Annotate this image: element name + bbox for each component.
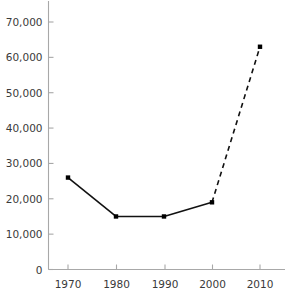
y-tick-label: 70,000	[6, 16, 43, 28]
y-tick-label: 0	[36, 264, 43, 276]
y-tick-label: 50,000	[6, 87, 43, 99]
line-chart: 010,00020,00030,00040,00050,00060,00070,…	[0, 0, 291, 301]
x-tick-label: 1970	[55, 278, 82, 290]
y-tick-label: 60,000	[6, 51, 43, 63]
x-tick-label: 2010	[247, 278, 274, 290]
y-tick-label: 10,000	[6, 228, 43, 240]
data-point-marker	[66, 175, 70, 179]
y-tick-label: 30,000	[6, 157, 43, 169]
x-tick-label: 2000	[199, 278, 226, 290]
chart-background	[0, 0, 291, 301]
data-point-marker	[258, 45, 262, 49]
y-tick-label: 40,000	[6, 122, 43, 134]
x-tick-label: 1980	[103, 278, 130, 290]
data-point-marker	[162, 214, 166, 218]
x-tick-label: 1990	[152, 278, 179, 290]
chart-canvas: 010,00020,00030,00040,00050,00060,00070,…	[0, 0, 291, 301]
data-point-marker	[210, 200, 214, 204]
y-tick-label: 20,000	[6, 193, 43, 205]
data-point-marker	[114, 214, 118, 218]
